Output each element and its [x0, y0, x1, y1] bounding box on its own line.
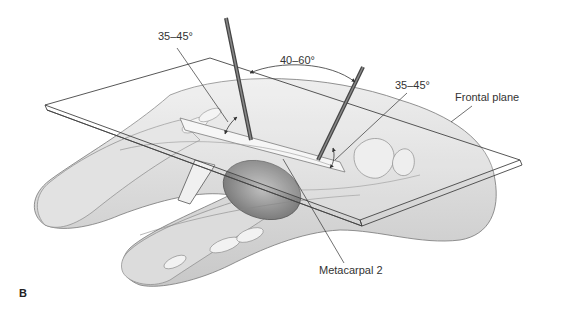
angle-label-left: 35–45° — [158, 30, 193, 42]
metacarpal-label: Metacarpal 2 — [319, 264, 383, 276]
angle-label-right: 35–45° — [395, 79, 430, 91]
angle-label-top: 40–60° — [280, 54, 315, 66]
hand-anatomy-illustration — [0, 0, 570, 315]
frontal-plane-label: Frontal plane — [455, 91, 519, 103]
panel-letter: B — [19, 287, 27, 299]
